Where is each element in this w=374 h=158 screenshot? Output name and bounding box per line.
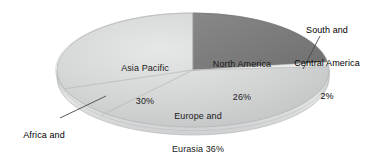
pie-chart: North America 26% Asia Pacific 30% Europ… xyxy=(0,0,374,158)
slice-label-europe-eurasia-name: Europe and xyxy=(139,111,257,122)
slice-label-africa-middle-east: Africa and Middle East 6% xyxy=(2,108,86,158)
slice-label-europe-eurasia: Europe and Eurasia 36% xyxy=(139,89,257,158)
slice-label-africa-middle-east-line1: Africa and xyxy=(2,130,86,141)
slice-label-south-central-america: South and Central America 2% xyxy=(280,3,374,124)
slice-label-asia-pacific-name: Asia Pacific xyxy=(93,63,197,74)
slice-label-south-central-america-value: 2% xyxy=(280,91,374,102)
slice-label-europe-eurasia-value: Eurasia 36% xyxy=(139,144,257,155)
slice-label-south-central-america-line2: Central America xyxy=(280,58,374,69)
slice-label-south-central-america-line1: South and xyxy=(280,25,374,36)
